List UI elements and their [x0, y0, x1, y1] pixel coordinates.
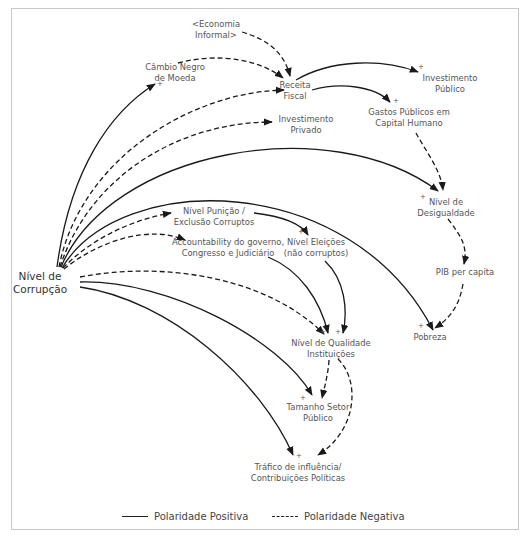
node-label: Investimento — [423, 73, 478, 84]
node-label: Congresso e Judiciário — [172, 248, 284, 259]
plus-sign: + — [296, 452, 302, 460]
legend-positive-label: Polaridade Positiva — [154, 511, 248, 522]
edge-receita-gastos — [312, 86, 390, 102]
node-label: Contribuições Políticas — [251, 473, 345, 484]
node-investimento-privado: Investimento Privado — [279, 114, 334, 136]
edge-desigualdade-pib — [448, 219, 465, 264]
node-qualidade-instituicoes: Nível de Qualidade Instituições — [291, 338, 370, 360]
edge-gastos-desigualdade — [416, 133, 443, 190]
node-nivel-eleicoes: Nível Eleições (não corruptos) — [284, 237, 349, 259]
node-label: Pobreza — [413, 332, 446, 343]
plus-sign: + — [298, 228, 304, 236]
node-label: Tamanho Setor — [287, 402, 350, 413]
edge-pib-pobreza — [435, 284, 463, 328]
edge-eleicoes-qualidade — [325, 261, 345, 333]
node-label: Informal> — [192, 30, 240, 41]
plus-sign: + — [418, 322, 424, 330]
edge-corrupcao-qualidade — [80, 271, 324, 334]
plus-sign: + — [420, 193, 426, 201]
edge-accountability-qualidade — [268, 257, 328, 333]
plus-sign: + — [300, 394, 306, 402]
node-label: Accountability do governo, — [172, 237, 284, 248]
node-label: Privado — [279, 125, 334, 136]
edge-corrupcao-trafico — [80, 287, 293, 455]
node-label: Exclusão Corruptos — [174, 217, 255, 228]
plus-sign: + — [335, 328, 341, 336]
node-pib-per-capita: PIB per capita — [436, 267, 494, 278]
node-label: Nível de — [13, 270, 67, 283]
node-label: Público — [287, 413, 350, 424]
node-label: Desigualdade — [417, 208, 474, 219]
node-label: Gastos Públicos em — [368, 107, 450, 118]
edge-economia-receita — [242, 32, 290, 76]
node-accountability: Accountability do governo, Congresso e J… — [172, 237, 284, 259]
solid-line-icon — [122, 516, 148, 517]
node-economia-informal: <Economia Informal> — [192, 19, 240, 41]
plus-sign: + — [157, 80, 163, 88]
dashed-line-icon — [272, 516, 298, 517]
legend-positive: Polaridade Positiva — [122, 511, 248, 522]
node-label: PIB per capita — [436, 267, 494, 278]
node-label: Público — [423, 84, 478, 95]
node-label: Nível de Qualidade — [291, 338, 370, 349]
node-label: (não corruptos) — [284, 248, 349, 259]
node-label: Corrupção — [13, 283, 67, 296]
node-label: Fiscal — [279, 91, 310, 102]
node-label: Investimento — [279, 114, 334, 125]
node-tamanho-setor-publico: Tamanho Setor Público — [287, 402, 350, 424]
edge-qualidade-tamanho — [322, 360, 329, 398]
node-nivel-corrupcao: Nível de Corrupção — [13, 270, 67, 295]
node-investimento-publico: Investimento Público — [423, 73, 478, 95]
legend-negative-label: Polaridade Negativa — [304, 511, 405, 522]
edge-receita-invest-publico — [296, 63, 418, 80]
legend-negative: Polaridade Negativa — [272, 511, 405, 522]
node-nivel-punicao: Nível Punição / Exclusão Corruptos — [174, 206, 255, 228]
plus-sign: + — [393, 97, 399, 105]
plus-sign: + — [418, 63, 424, 71]
node-cambio-negro: Câmbio Negro de Moeda — [145, 62, 205, 84]
node-receita-fiscal: Receita Fiscal — [279, 80, 310, 102]
node-label: Capital Humano — [368, 118, 450, 129]
node-label: <Economia — [192, 19, 240, 30]
node-gastos-publicos: Gastos Públicos em Capital Humano — [368, 107, 450, 129]
plus-sign: + — [320, 328, 326, 336]
node-label: Instituições — [291, 349, 370, 360]
node-label: Tráfico de influência/ — [251, 462, 345, 473]
node-trafico-influencia: Tráfico de influência/ Contribuições Pol… — [251, 462, 345, 484]
node-label: Receita — [279, 80, 310, 91]
edge-corrupcao-cambio — [57, 84, 155, 267]
node-label: Nível Eleições — [284, 237, 349, 248]
node-pobreza: Pobreza — [413, 332, 446, 343]
node-label: Câmbio Negro — [145, 62, 205, 73]
node-label: Nível Punição / — [174, 206, 255, 217]
node-label: de Moeda — [145, 73, 205, 84]
